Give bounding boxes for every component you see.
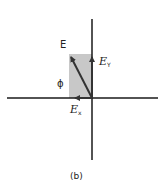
figure-caption: (b) bbox=[70, 172, 83, 181]
ey-main: E bbox=[99, 55, 107, 68]
ey-subscript: Y bbox=[107, 61, 111, 68]
ey-label: EY bbox=[99, 56, 111, 68]
vector-e-label: E bbox=[60, 40, 66, 50]
angle-phi-label: ϕ bbox=[57, 79, 64, 89]
vector-diagram bbox=[0, 0, 158, 188]
ex-label: Ex bbox=[70, 104, 82, 116]
ex-main: E bbox=[70, 103, 78, 116]
ex-subscript: x bbox=[78, 109, 82, 116]
